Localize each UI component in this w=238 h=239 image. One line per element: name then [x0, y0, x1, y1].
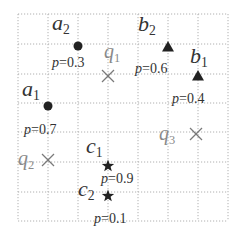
probability-label-a2: p=0.3 — [51, 55, 84, 70]
probability-label-b2: p=0.6 — [134, 61, 167, 76]
circle-marker-icon — [44, 102, 53, 111]
point-label-a1: a1 — [22, 76, 40, 103]
star-marker-icon — [102, 160, 114, 172]
point-label-a2: a2 — [52, 10, 70, 37]
labels-layer: a2p=0.3a1p=0.7b2p=0.6b1p=0.4c1p=0.9c2p=0… — [18, 10, 208, 226]
point-label-b1: b1 — [190, 43, 208, 70]
probability-label-b1: p=0.4 — [171, 91, 204, 106]
point-label-b2: b2 — [138, 11, 156, 38]
uncertain-points-diagram: a2p=0.3a1p=0.7b2p=0.6b1p=0.4c1p=0.9c2p=0… — [0, 0, 238, 239]
query-label-q2: q2 — [18, 147, 34, 172]
triangle-marker-icon — [162, 41, 174, 52]
probability-label-a1: p=0.7 — [23, 122, 56, 137]
query-label-q3: q3 — [159, 122, 175, 147]
probability-label-c2: p=0.1 — [93, 211, 126, 226]
triangle-marker-icon — [192, 70, 204, 81]
point-label-c1: c1 — [86, 133, 103, 160]
star-marker-icon — [102, 190, 114, 202]
point-label-c2: c2 — [78, 176, 95, 203]
circle-marker-icon — [74, 42, 83, 51]
probability-label-c1: p=0.9 — [100, 171, 133, 186]
